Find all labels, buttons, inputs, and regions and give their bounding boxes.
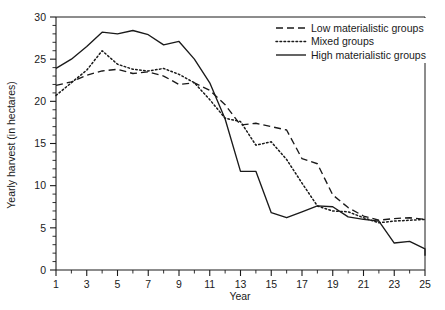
x-tick-label: 5	[115, 278, 121, 290]
y-tick-label: 15	[34, 137, 46, 149]
y-tick-label: 0	[40, 264, 46, 276]
legend-label: Mixed groups	[311, 35, 374, 47]
y-tick-label: 10	[34, 179, 46, 191]
data-series	[56, 30, 425, 255]
chart-legend: Low materialistic groupsMixed groupsHigh…	[272, 18, 440, 63]
x-tick-label: 9	[176, 278, 182, 290]
x-tick-label: 15	[265, 278, 277, 290]
x-tick-label: 17	[296, 278, 308, 290]
y-axis-title: Yearly harvest (in hectares)	[5, 81, 17, 208]
x-axis-title: Year	[229, 290, 251, 302]
series-line-solid	[56, 30, 425, 255]
x-tick-label: 19	[327, 278, 339, 290]
y-axis-tick-labels: 051015202530	[34, 11, 46, 276]
x-axis-tick-labels: 135791113151719212325	[53, 278, 431, 290]
x-tick-label: 11	[204, 278, 215, 290]
x-tick-label: 25	[419, 278, 431, 290]
x-tick-label: 23	[388, 278, 400, 290]
y-tick-label: 30	[34, 11, 46, 23]
x-tick-label: 7	[145, 278, 151, 290]
y-tick-label: 5	[40, 222, 46, 234]
x-tick-label: 1	[53, 278, 59, 290]
series-line-dotted	[56, 51, 425, 223]
y-axis-ticks	[50, 17, 56, 270]
series-line-dashed	[56, 69, 425, 220]
x-axis-ticks	[56, 270, 425, 276]
x-tick-label: 13	[235, 278, 247, 290]
legend-label: Low materialistic groups	[311, 22, 424, 34]
legend-label: High materialistic groups	[311, 49, 426, 61]
x-tick-label: 3	[84, 278, 90, 290]
chart-container: 051015202530 135791113151719212325 Yearl…	[0, 0, 445, 310]
y-tick-label: 20	[34, 95, 46, 107]
x-tick-label: 21	[358, 278, 370, 290]
line-chart: 051015202530 135791113151719212325 Yearl…	[0, 0, 445, 310]
y-tick-label: 25	[34, 53, 46, 65]
